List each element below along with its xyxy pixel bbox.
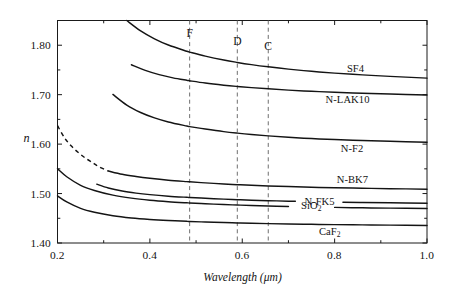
curve-label-caf2: CaF2: [319, 226, 341, 239]
y-tick-label-1-50: 1.50: [31, 188, 51, 200]
curve-n-lak10: [131, 65, 427, 95]
y-tick-label-1-80: 1.80: [31, 39, 51, 51]
y-axis-title: n: [24, 131, 30, 146]
x-tick-label-0-2: 0.2: [50, 249, 65, 261]
curve-sio2: [335, 207, 427, 208]
caf2-formula-main: CaF: [319, 226, 337, 237]
sio2-formula-main: SiO: [301, 200, 318, 211]
axes-group: [58, 21, 428, 244]
x-tick-label-1-0: 1.0: [420, 249, 435, 261]
curve-n-fk5: [343, 202, 427, 203]
curve-label-n-f2: N-F2: [341, 143, 364, 154]
y-tick-label-1-40: 1.40: [31, 237, 51, 249]
curve-n-fk5: [97, 184, 296, 201]
reference-label-d: D: [233, 35, 241, 48]
x-tick-label-0-8: 0.8: [327, 249, 342, 261]
reference-label-f: F: [187, 27, 193, 40]
curve-label-n-lak10: N-LAK10: [326, 94, 370, 105]
curve-n-bk7: [108, 171, 427, 189]
curve-n-bk7-extension: [58, 126, 109, 171]
x-axis-title: Wavelength (μm): [203, 271, 281, 284]
curves-group: [58, 21, 428, 226]
chart-canvas: [0, 0, 449, 297]
sio2-formula-subscript: 2: [318, 204, 322, 213]
ticks-group: [58, 21, 428, 244]
reference-label-c: C: [264, 40, 272, 53]
curve-label-sf4: SF4: [347, 63, 364, 74]
y-tick-label-1-60: 1.60: [31, 138, 51, 150]
curve-label-sio2: SiO2: [301, 200, 322, 213]
curve-n-f2: [113, 94, 427, 142]
curve-sf4: [127, 21, 427, 79]
y-tick-label-1-70: 1.70: [31, 89, 51, 101]
curve-label-n-bk7: N-BK7: [337, 174, 368, 185]
caf2-formula-subscript: 2: [337, 230, 341, 239]
x-tick-label-0-4: 0.4: [142, 249, 157, 261]
x-tick-label-0-6: 0.6: [235, 249, 250, 261]
dispersion-chart-figure: 1.40 1.50 1.60 1.70 1.80 0.2 0.4 0.6 0.8…: [0, 0, 449, 297]
